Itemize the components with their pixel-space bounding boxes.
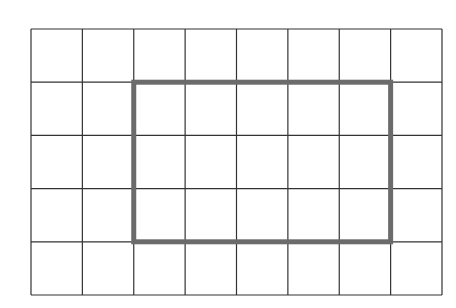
grid-diagram	[0, 0, 456, 308]
grid-lines	[31, 29, 442, 295]
highlight-rectangle	[134, 82, 391, 242]
